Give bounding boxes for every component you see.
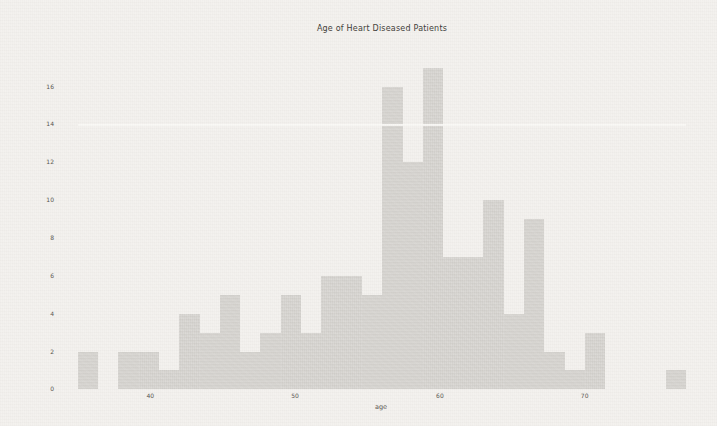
- histogram-bar: [118, 352, 139, 390]
- histogram-bar: [179, 314, 200, 390]
- histogram-bar: [585, 333, 606, 390]
- y-tick-label: 0: [30, 385, 54, 393]
- histogram-bar: [281, 295, 302, 390]
- x-axis-label: age: [375, 403, 387, 411]
- histogram-bar: [463, 257, 484, 389]
- histogram-bar: [341, 276, 362, 390]
- y-tick-label: 2: [30, 348, 54, 356]
- y-tick-label: 6: [30, 272, 54, 280]
- histogram-bar: [402, 162, 423, 389]
- y-tick-label: 8: [30, 234, 54, 242]
- x-tick-label: 40: [138, 392, 162, 400]
- y-tick-label: 16: [30, 83, 54, 91]
- histogram-bar: [544, 352, 565, 390]
- y-tick-label: 12: [30, 158, 54, 166]
- histogram-bar: [301, 333, 322, 390]
- histogram-bar: [220, 295, 241, 390]
- white-gridline: [78, 124, 686, 125]
- histogram-bar: [666, 370, 687, 389]
- histogram-bar: [504, 314, 525, 390]
- plot-area: 024681012141640506070: [0, 0, 717, 426]
- histogram-bar: [443, 257, 464, 389]
- y-tick-label: 14: [30, 120, 54, 128]
- histogram-bar: [78, 352, 99, 390]
- histogram-bar: [260, 333, 281, 390]
- histogram-bar: [362, 295, 383, 390]
- histogram-bar: [159, 370, 180, 389]
- x-tick-label: 50: [283, 392, 307, 400]
- y-tick-label: 4: [30, 310, 54, 318]
- histogram-bar: [200, 333, 221, 390]
- histogram-bar: [382, 87, 403, 390]
- histogram-bar: [564, 370, 585, 389]
- histogram-bar: [139, 352, 160, 390]
- histogram-bar: [423, 68, 444, 390]
- histogram-bar: [240, 352, 261, 390]
- histogram-bar: [524, 219, 545, 389]
- histogram-bar: [321, 276, 342, 390]
- histogram-bar: [483, 200, 504, 389]
- histogram-figure: Age of Heart Diseased Patients 024681012…: [0, 0, 717, 426]
- y-tick-label: 10: [30, 196, 54, 204]
- x-tick-label: 60: [428, 392, 452, 400]
- x-tick-label: 70: [573, 392, 597, 400]
